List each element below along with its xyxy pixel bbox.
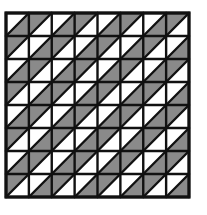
triangle-grid [4,11,191,199]
triangle-grid-drawing [4,11,191,199]
